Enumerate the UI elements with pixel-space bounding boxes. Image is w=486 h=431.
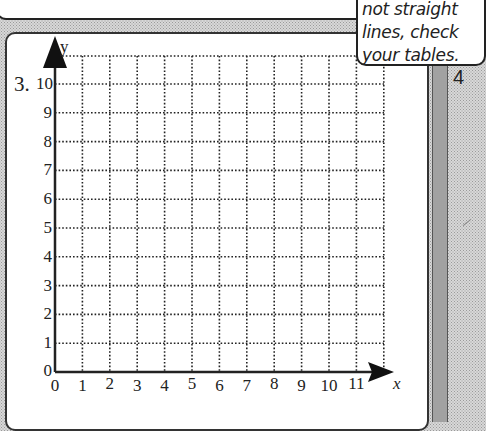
y-tick-label: 5 bbox=[44, 218, 53, 237]
x-tick-label: 10 bbox=[321, 376, 338, 395]
x-tick-label: 9 bbox=[297, 376, 306, 395]
problem-number: 3. bbox=[14, 72, 30, 96]
y-tick-label: 2 bbox=[44, 304, 53, 323]
grid-lines bbox=[55, 56, 384, 372]
y-axis-label: y bbox=[60, 37, 69, 56]
y-tick-label: 0 bbox=[44, 361, 53, 380]
y-tick-labels: 012345678910 bbox=[36, 74, 53, 380]
x-tick-label: 8 bbox=[270, 374, 279, 393]
x-tick-label: 3 bbox=[133, 376, 142, 395]
x-tick-label: 5 bbox=[188, 374, 197, 393]
y-tick-label: 9 bbox=[44, 103, 53, 122]
y-tick-label: 7 bbox=[44, 160, 53, 179]
y-tick-label: 6 bbox=[44, 189, 53, 208]
hint-callout-text: not straight lines, check your tables. bbox=[362, 0, 472, 67]
y-tick-label: 3 bbox=[44, 276, 53, 295]
x-axis-label: x bbox=[392, 374, 401, 393]
axes bbox=[43, 36, 394, 382]
x-tick-label: 6 bbox=[215, 376, 224, 395]
y-tick-label: 1 bbox=[44, 333, 53, 352]
hint-line-2: lines, check bbox=[362, 21, 472, 44]
hint-line-1: not straight bbox=[362, 0, 472, 21]
y-tick-label: 4 bbox=[44, 247, 53, 266]
y-tick-label: 8 bbox=[44, 132, 53, 151]
hint-line-3: your tables. bbox=[362, 44, 472, 67]
x-tick-label: 2 bbox=[106, 374, 115, 393]
x-tick-label: 7 bbox=[243, 376, 252, 395]
x-tick-label: 11 bbox=[348, 374, 364, 393]
x-tick-labels: 01234567891011 bbox=[51, 374, 365, 395]
y-tick-label: 10 bbox=[36, 74, 53, 93]
x-tick-label: 4 bbox=[160, 376, 169, 395]
x-tick-label: 1 bbox=[78, 376, 87, 395]
x-tick-label: 0 bbox=[51, 376, 60, 395]
